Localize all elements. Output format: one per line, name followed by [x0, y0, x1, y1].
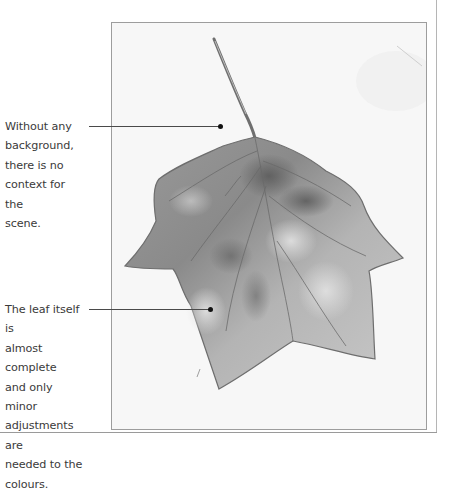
- callout-dot-leaf: [208, 307, 213, 312]
- annotation-line: background,: [5, 136, 85, 155]
- annotation-line: The leaf itself is: [5, 300, 85, 339]
- annotation-leaf-note: The leaf itself is almost complete and o…: [5, 300, 85, 492]
- annotation-line: needed to the: [5, 455, 85, 474]
- annotation-line: and only minor: [5, 378, 85, 417]
- annotation-line: context for the: [5, 175, 85, 214]
- annotation-background-note: Without any background, there is no cont…: [5, 117, 85, 233]
- callout-line-background: [89, 126, 221, 127]
- annotation-line: Without any: [5, 117, 85, 136]
- callout-line-leaf: [89, 309, 211, 310]
- page-edge-right: [436, 0, 437, 433]
- annotation-line: there is no: [5, 156, 85, 175]
- annotation-line: scene.: [5, 214, 85, 233]
- callout-dot-background: [218, 124, 223, 129]
- annotation-line: almost complete: [5, 339, 85, 378]
- leaf-illustration: [112, 23, 426, 429]
- annotation-line: colours.: [5, 475, 85, 492]
- annotation-line: adjustments are: [5, 416, 85, 455]
- leaf-painting: [111, 22, 427, 430]
